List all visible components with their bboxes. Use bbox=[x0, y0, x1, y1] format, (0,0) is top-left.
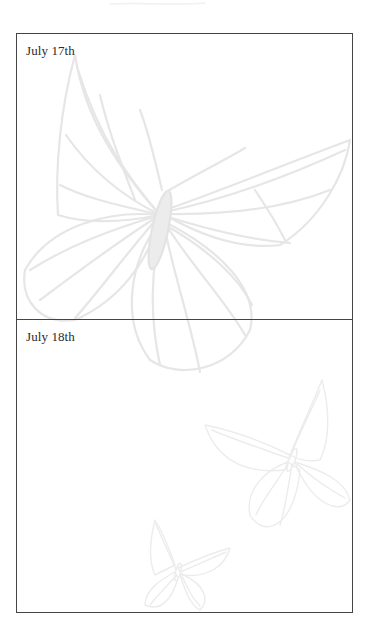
entry-date-label: July 18th bbox=[26, 329, 75, 345]
entry-section-july-17[interactable]: July 17th bbox=[17, 34, 352, 319]
entry-section-july-18[interactable]: July 18th bbox=[17, 319, 352, 612]
top-residue-mark bbox=[110, 3, 205, 4]
entry-date-label: July 17th bbox=[26, 43, 75, 59]
journal-frame: July 17th July 18th bbox=[16, 33, 353, 613]
